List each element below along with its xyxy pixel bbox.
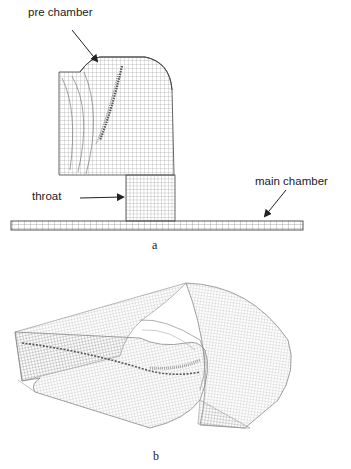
main-chamber-mesh <box>11 221 303 230</box>
caption-b: b <box>153 449 159 464</box>
diagram-canvas <box>0 0 351 469</box>
label-throat: throat <box>32 190 61 202</box>
figure-a-mesh <box>11 57 303 230</box>
throat-mesh <box>126 175 175 221</box>
pre-chamber-arrow <box>72 30 97 61</box>
label-main-chamber: main chamber <box>255 175 328 187</box>
main-chamber-arrow <box>265 190 286 216</box>
label-pre-chamber: pre chamber <box>28 6 93 18</box>
caption-a: a <box>152 238 157 253</box>
throat-arrow <box>80 197 123 198</box>
pre-chamber-mesh <box>59 57 174 175</box>
figure-b-mesh <box>15 283 291 428</box>
